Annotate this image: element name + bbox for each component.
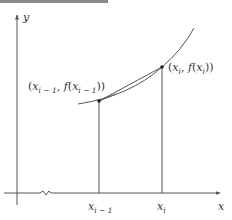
tick-label-left: xi − 1: [88, 200, 112, 215]
tick-label-right: xi: [157, 200, 166, 215]
secant-chord: [99, 67, 162, 101]
diagram-canvas: y x (xi − 1, f(xi − 1)) (xi, f(xi)) xi −…: [0, 0, 232, 220]
secant-extension: [99, 94, 116, 101]
x-axis-label: x: [218, 200, 225, 213]
point-left-label: (xi − 1, f(xi − 1)): [28, 80, 105, 95]
point-right: [160, 65, 164, 69]
y-axis-label: y: [22, 11, 30, 24]
point-right-label: (xi, f(xi)): [168, 61, 214, 76]
point-left: [97, 99, 101, 103]
x-axis: [4, 191, 220, 195]
